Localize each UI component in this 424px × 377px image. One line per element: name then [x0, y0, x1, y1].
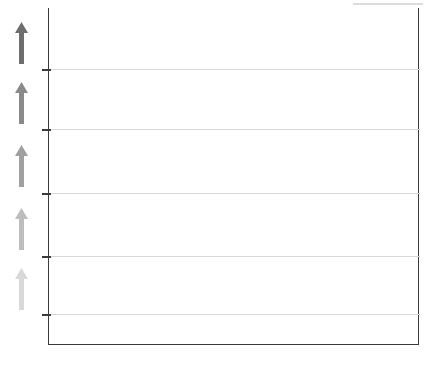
plot-area — [48, 8, 419, 345]
gradient-arrow-8-to-16 — [14, 82, 29, 124]
cell-lineage-artwork — [49, 8, 420, 345]
figure-panel — [0, 0, 424, 377]
gradient-arrow-1-to-2 — [14, 268, 29, 310]
top-rule-decoration — [353, 3, 423, 5]
gradient-arrow-16-to-32 — [14, 22, 29, 64]
gradient-arrow-2-to-4 — [14, 208, 29, 250]
gradient-arrow-4-to-8 — [14, 145, 29, 187]
top-caption — [47, 0, 247, 6]
cell-lineage-svg — [49, 8, 420, 345]
